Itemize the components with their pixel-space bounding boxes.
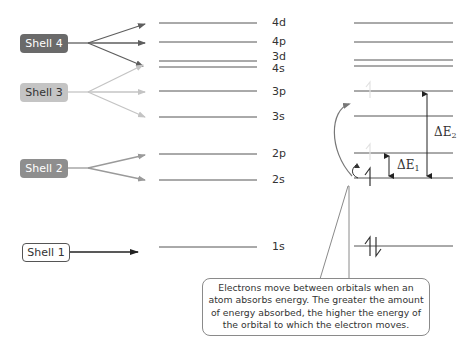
shell-2-box: Shell 2 [20, 159, 68, 178]
excitation-curve-arrow [334, 104, 352, 176]
callout-pointer [320, 186, 349, 279]
delta-e1-label: ΔE1 [397, 158, 420, 173]
orbital-label-2s: 2s [272, 174, 285, 186]
shell-3-box: Shell 3 [20, 83, 68, 102]
orbital-label-3s: 3s [272, 111, 285, 123]
electron-up-2s [365, 168, 370, 186]
orbital-label-4s: 4s [272, 63, 285, 75]
delta-e2-subscript: 2 [451, 131, 456, 140]
left-orbital-lines [159, 23, 257, 247]
delta-e2-symbol: ΔE [434, 125, 451, 139]
arrow-to-3s [88, 92, 145, 117]
delta-e1-subscript: 1 [414, 164, 419, 173]
delta-e1-symbol: ΔE [397, 158, 414, 172]
orbital-label-4d: 4d [272, 17, 286, 29]
orbital-label-3p: 3p [272, 86, 286, 98]
ghost-electron-3p [366, 82, 370, 98]
ghost-electrons [366, 82, 370, 160]
orbital-label-2p: 2p [272, 148, 286, 160]
shell-4-arrows [68, 24, 145, 66]
shell-4-box: Shell 4 [20, 34, 68, 53]
delta-e2-label: ΔE2 [434, 125, 457, 140]
arrow-to-4s [88, 43, 143, 66]
callout-text: Electrons move between orbitals when an … [208, 282, 423, 330]
shell-3-arrows [68, 65, 145, 117]
arrow-to-2p [88, 155, 145, 168]
explanation-callout: Electrons move between orbitals when an … [202, 278, 430, 336]
shell-2-arrows [68, 155, 145, 180]
ghost-electron-2p [366, 144, 370, 160]
arrow-to-2s [88, 168, 145, 180]
arrow-to-3d [88, 65, 143, 92]
orbital-label-4p: 4p [272, 36, 286, 48]
arrow-to-4d [88, 24, 145, 43]
shell-1-box: Shell 1 [22, 243, 70, 262]
orbital-label-1s: 1s [272, 241, 285, 253]
